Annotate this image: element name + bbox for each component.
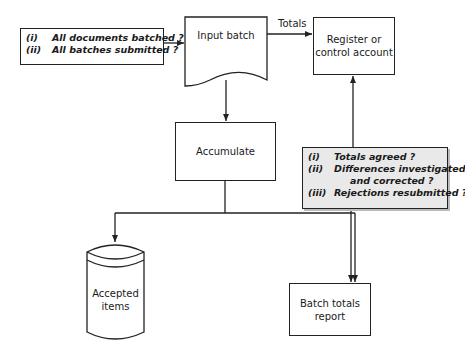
node-batch-totals: Batch totals report: [289, 283, 371, 336]
input-checks-box: (i) All documents batched ? (ii) All bat…: [20, 28, 164, 65]
output-check-item: (i) Totals agreed ?: [308, 151, 442, 163]
node-accepted-items: Accepted items: [87, 285, 144, 315]
edge-label-totals: Totals: [278, 18, 307, 29]
output-check-item-continued: and corrected ?: [308, 175, 442, 187]
input-check-item: (ii) All batches submitted ?: [26, 44, 158, 56]
node-register: Register or control account: [313, 17, 395, 75]
node-input-batch: Input batch: [185, 22, 267, 48]
node-accumulate: Accumulate: [175, 122, 276, 181]
output-check-item: (ii) Differences investigated: [308, 163, 442, 175]
output-checks-box: (i) Totals agreed ? (ii) Differences inv…: [302, 147, 448, 209]
input-check-item: (i) All documents batched ?: [26, 32, 158, 44]
output-check-item: (iii) Rejections resubmitted ?: [308, 187, 442, 199]
